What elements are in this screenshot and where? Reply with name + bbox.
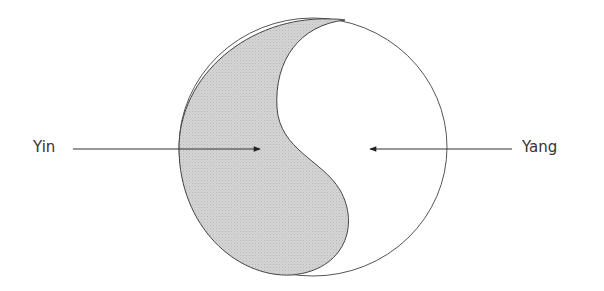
yin-label: Yin: [33, 140, 55, 155]
yang-label: Yang: [522, 140, 557, 155]
yin-yang-figure: [0, 0, 604, 291]
yin-yang-diagram: Yin Yang: [0, 0, 604, 291]
